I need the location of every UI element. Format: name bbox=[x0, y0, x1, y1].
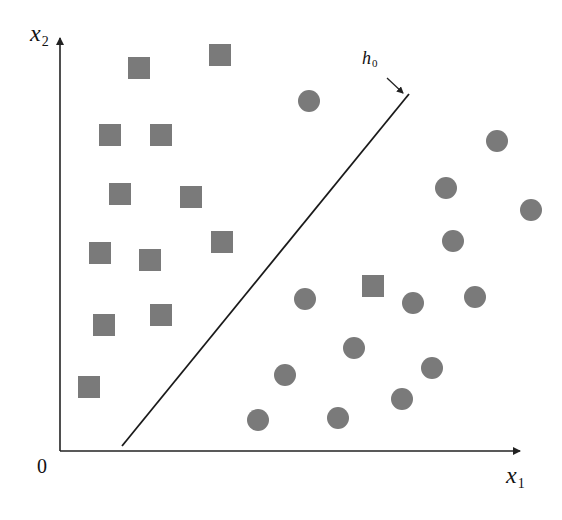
circle-marker bbox=[464, 286, 486, 308]
square-marker bbox=[362, 275, 384, 297]
square-marker bbox=[99, 124, 121, 146]
circle-marker bbox=[435, 177, 457, 199]
circle-marker bbox=[343, 337, 365, 359]
origin-label: 0 bbox=[37, 455, 47, 478]
square-marker bbox=[139, 249, 161, 271]
scatter-diagram bbox=[0, 0, 562, 520]
boundary-label: h0 bbox=[362, 48, 378, 69]
circle-marker bbox=[421, 357, 443, 379]
square-marker bbox=[150, 304, 172, 326]
circle-marker bbox=[298, 90, 320, 112]
square-marker bbox=[150, 124, 172, 146]
square-marker bbox=[209, 44, 231, 66]
circle-marker bbox=[247, 409, 269, 431]
square-marker bbox=[180, 186, 202, 208]
y-axis-label-sub: 2 bbox=[42, 34, 49, 49]
decision-boundary-line bbox=[122, 94, 409, 446]
boundary-label-sub: 0 bbox=[372, 57, 378, 69]
square-marker bbox=[78, 376, 100, 398]
circle-marker bbox=[402, 292, 424, 314]
data-points bbox=[78, 44, 542, 431]
square-marker bbox=[109, 183, 131, 205]
boundary-pointer-arrow bbox=[387, 78, 403, 93]
circle-marker bbox=[520, 199, 542, 221]
boundary-label-main: h bbox=[362, 48, 371, 68]
circle-marker bbox=[391, 388, 413, 410]
x-axis-label-main: x bbox=[506, 462, 517, 488]
y-axis-label-main: x bbox=[30, 20, 41, 46]
y-axis-label: x2 bbox=[30, 20, 49, 47]
square-marker bbox=[89, 242, 111, 264]
circle-marker bbox=[442, 230, 464, 252]
x-axis-label-sub: 1 bbox=[518, 476, 525, 491]
circle-marker bbox=[294, 288, 316, 310]
square-marker bbox=[211, 231, 233, 253]
square-marker bbox=[93, 314, 115, 336]
circle-marker bbox=[327, 407, 349, 429]
x-axis-label: x1 bbox=[506, 462, 525, 489]
circle-marker bbox=[486, 130, 508, 152]
square-marker bbox=[128, 57, 150, 79]
circle-marker bbox=[274, 364, 296, 386]
